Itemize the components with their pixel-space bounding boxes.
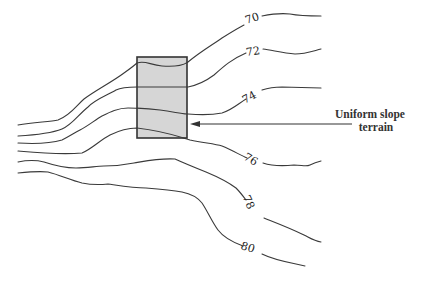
contour-elevation-labels: 707274767880 — [239, 10, 261, 256]
contour-line-80 — [18, 172, 243, 246]
contour-line-80 — [262, 254, 305, 266]
contour-line-70 — [18, 25, 244, 125]
arrow-left-icon — [190, 121, 200, 127]
contour-label-76: 76 — [241, 150, 260, 168]
contour-lines — [18, 14, 321, 266]
contour-line-70 — [18, 25, 244, 125]
uniform-slope-site-rectangle — [137, 57, 187, 138]
contour-label-70: 70 — [243, 10, 260, 27]
contour-line-80 — [18, 172, 243, 246]
contour-line-74 — [262, 87, 321, 90]
contour-line-76 — [263, 161, 321, 166]
callout: Uniform slope terrain — [190, 108, 405, 133]
contour-line-70 — [262, 14, 321, 16]
contour-label-72: 72 — [245, 44, 261, 59]
contour-line-78 — [18, 159, 246, 200]
contour-label-80: 80 — [239, 239, 256, 256]
contour-diagram: 707274767880 Uniform slope terrain — [0, 0, 421, 281]
callout-label-line2: terrain — [359, 121, 394, 133]
contour-line-72 — [263, 49, 321, 54]
callout-label-line1: Uniform slope — [335, 108, 405, 121]
contour-line-76 — [18, 128, 247, 158]
contour-label-74: 74 — [240, 88, 258, 106]
contour-line-78 — [264, 218, 321, 242]
